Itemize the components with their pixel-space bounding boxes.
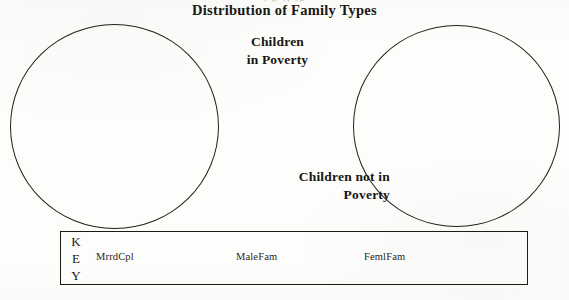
label-children-not-in-poverty-line-1: Children not in xyxy=(299,169,390,184)
label-children-in-poverty-line-2: in Poverty xyxy=(247,52,309,67)
label-children-not-in-poverty-line-2: Poverty xyxy=(344,187,390,202)
pie-circle-children-in-poverty xyxy=(10,24,219,229)
key-heading: K E Y xyxy=(65,233,87,284)
key-legend-item-femlfam: FemlFam xyxy=(364,251,405,262)
key-legend-box: K E Y MrrdCpl MaleFam FemlFam xyxy=(60,231,528,285)
page-title: Distribution of Family Types xyxy=(0,2,569,19)
key-heading-letter-e: E xyxy=(65,250,87,267)
family-types-figure: y p y, yp Distribution of Family Types C… xyxy=(0,0,569,300)
key-legend-item-malefam: MaleFam xyxy=(236,251,277,262)
key-heading-letter-k: K xyxy=(65,233,87,250)
label-children-in-poverty: Children in Poverty xyxy=(205,33,350,69)
label-children-not-in-poverty: Children not in Poverty xyxy=(215,168,390,204)
key-heading-letter-y: Y xyxy=(65,267,87,284)
key-legend-item-mrrdcpl: MrrdCpl xyxy=(96,251,134,262)
label-children-in-poverty-line-1: Children xyxy=(251,34,304,49)
